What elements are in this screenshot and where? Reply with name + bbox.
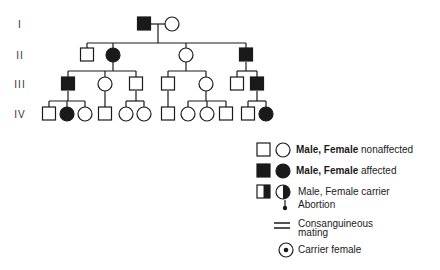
male-affected-icon: [62, 77, 75, 90]
legend-abortion-label: Abortion: [298, 200, 335, 210]
female-nonaffected-icon: [137, 107, 151, 121]
legend-carrier-female-label: Carrier female: [298, 245, 361, 255]
legend-nonaffected-rest: nonaffected: [358, 144, 413, 155]
legend-abortion-icon: [283, 200, 287, 210]
male-nonaffected-icon: [242, 107, 255, 120]
female-nonaffected-icon: [179, 48, 193, 62]
legend-female-affected-icon: [276, 164, 290, 178]
male-nonaffected-icon: [99, 107, 112, 120]
legend-consanguineous-icon: [274, 223, 290, 228]
male-affected-icon: [240, 48, 253, 61]
female-nonaffected-icon: [165, 17, 179, 31]
female-nonaffected-icon: [200, 107, 214, 121]
male-nonaffected-icon: [81, 48, 94, 61]
male-affected-icon: [251, 77, 264, 90]
legend-female-nonaffected-icon: [276, 143, 290, 157]
female-nonaffected-icon: [199, 77, 213, 91]
generation-label-3: III: [14, 79, 25, 90]
female-nonaffected-icon: [181, 107, 195, 121]
generation-label-4: IV: [14, 109, 25, 120]
legend-nonaffected-label: Male, Female nonaffected: [296, 145, 413, 155]
male-nonaffected-icon: [162, 77, 175, 90]
legend-symbols: [257, 143, 293, 257]
legend-female-carrier-icon: [276, 185, 290, 199]
female-nonaffected-icon: [98, 77, 112, 91]
legend-male-nonaffected-icon: [257, 143, 270, 156]
legend-affected-label: Male, Female affected: [296, 166, 396, 176]
pedigree-chart: [0, 0, 440, 270]
female-nonaffected-icon: [78, 107, 92, 121]
male-nonaffected-icon: [130, 77, 143, 90]
legend-affected-rest: affected: [358, 165, 396, 176]
male-nonaffected-icon: [43, 107, 56, 120]
female-affected-icon: [106, 48, 120, 62]
legend-consanguineous-label-line2: mating: [298, 228, 328, 238]
legend-nonaffected-bold: Male, Female: [296, 144, 358, 155]
male-nonaffected-icon: [220, 107, 233, 120]
legend-carrier-female-icon: [279, 243, 293, 257]
legend-male-affected-icon: [257, 164, 270, 177]
legend-male-carrier-icon: [257, 185, 270, 198]
male-nonaffected-icon: [231, 77, 244, 90]
female-affected-icon: [60, 107, 74, 121]
male-nonaffected-icon: [162, 107, 175, 120]
pedigree-lines: [49, 24, 266, 107]
legend-carrier-label: Male, Female carrier: [298, 187, 390, 197]
male-affected-icon: [138, 17, 151, 30]
female-affected-icon: [259, 107, 273, 121]
generation-label-1: I: [18, 19, 22, 30]
legend-affected-bold: Male, Female: [296, 165, 358, 176]
generation-label-2: II: [16, 50, 24, 61]
female-nonaffected-icon: [119, 107, 133, 121]
